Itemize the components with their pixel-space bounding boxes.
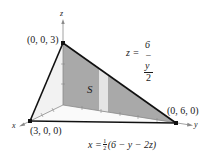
equation-x-half-den: 2 <box>103 145 106 151</box>
x-arrow-icon <box>19 122 25 126</box>
x-axis-label: x <box>12 122 16 130</box>
vertex-label-060: (0, 6, 0) <box>167 106 199 116</box>
vertex-label-300: (3, 0, 0) <box>30 126 62 136</box>
equation-x: x = 1 2 (6 − y − 2z) <box>88 138 156 151</box>
equation-z-numerator: 6 − y <box>144 40 153 73</box>
equation-x-half: 1 2 <box>103 138 107 151</box>
equation-x-lhs: x = <box>88 140 102 150</box>
z-arrow-icon <box>61 19 64 24</box>
vertex-label-003: (0, 0, 3) <box>27 35 59 45</box>
light-strip <box>99 68 108 112</box>
equation-z-denominator: 2 <box>146 73 151 84</box>
y-arrow-icon <box>187 123 193 127</box>
equation-x-half-num: 1 <box>103 138 107 145</box>
z-axis-label: z <box>60 10 63 18</box>
vertex-dot-003 <box>61 41 65 45</box>
y-axis-label: y <box>194 121 198 129</box>
surface-label: S <box>87 84 93 95</box>
equation-z-fraction: 6 − y 2 <box>144 40 153 83</box>
vertex-dot-060 <box>174 121 178 125</box>
equation-z-lhs: z = <box>126 48 139 58</box>
vertex-dot-300 <box>28 119 32 123</box>
equation-x-rhs: (6 − y − 2z) <box>108 140 157 150</box>
